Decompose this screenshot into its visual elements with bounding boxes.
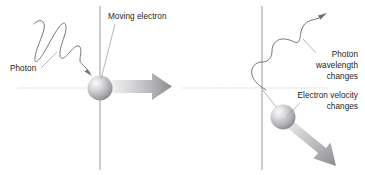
moving-electron-leader-line	[101, 24, 115, 79]
photon-leader-line	[41, 52, 57, 68]
label-photon: Photon	[10, 64, 37, 73]
electron-sphere-left	[88, 76, 113, 101]
label-photon-wavelength-line2: wavelength	[315, 61, 358, 70]
photon-wavelength-leader-line	[303, 39, 316, 53]
label-electron-velocity-line2: changes	[327, 102, 358, 111]
label-photon-wavelength-line1: Photon	[332, 50, 359, 59]
label-moving-electron: Moving electron	[108, 12, 167, 21]
incoming-photon-wave	[34, 21, 90, 73]
label-electron-velocity-line1: Electron velocity	[298, 91, 359, 100]
panel-before-collision: Moving electron Photon	[10, 6, 172, 170]
panel-after-collision: Photon wavelength changes Electron veloc…	[182, 6, 359, 170]
diagram-canvas: Moving electron Photon	[0, 0, 365, 175]
scattered-photon-arrowhead	[318, 13, 327, 20]
label-photon-wavelength-line3: changes	[327, 72, 358, 81]
compton-scattering-diagram: Moving electron Photon	[0, 0, 365, 175]
scatter-origin-leader-line	[262, 89, 276, 107]
electron-momentum-arrow-left	[112, 73, 172, 100]
electron-sphere-right	[271, 105, 296, 130]
